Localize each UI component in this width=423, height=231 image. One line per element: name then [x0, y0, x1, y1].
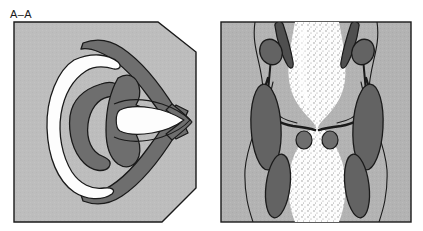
- panel-b-artwork: [211, 0, 423, 231]
- figure-root: A–A: [0, 0, 423, 231]
- panel-section-b-b: B–B: [211, 0, 423, 231]
- small-round-body-left: [296, 131, 312, 149]
- panel-a-artwork: [0, 0, 211, 231]
- panel-section-a-a: A–A: [0, 0, 211, 231]
- small-round-body-right: [322, 131, 338, 149]
